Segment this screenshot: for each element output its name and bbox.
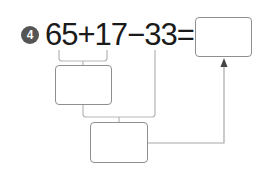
problem-number-badge: 4 [21, 26, 39, 44]
step1-box[interactable] [55, 65, 112, 105]
step2-box[interactable] [90, 122, 148, 163]
answer-box[interactable] [195, 17, 252, 57]
arrow-up-icon [221, 58, 228, 67]
equation-text: 65+17−33= [45, 18, 194, 52]
